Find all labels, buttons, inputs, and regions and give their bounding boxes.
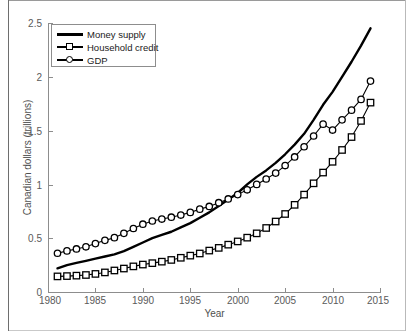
data-point-marker bbox=[178, 255, 184, 261]
data-point-marker bbox=[253, 230, 259, 236]
data-point-marker bbox=[329, 159, 335, 165]
data-point-marker bbox=[168, 257, 174, 263]
data-point-marker bbox=[310, 133, 316, 139]
data-point-marker bbox=[282, 211, 288, 217]
data-point-marker bbox=[291, 202, 297, 208]
data-point-marker bbox=[130, 225, 136, 231]
data-point-marker bbox=[64, 248, 70, 254]
data-point-marker bbox=[358, 96, 364, 102]
data-point-marker bbox=[187, 252, 193, 258]
legend-line-sample-money-supply bbox=[56, 28, 84, 40]
data-point-marker bbox=[348, 107, 354, 113]
data-point-marker bbox=[320, 169, 326, 175]
data-point-marker bbox=[73, 246, 79, 252]
data-point-marker bbox=[64, 273, 70, 279]
data-point-marker bbox=[73, 272, 79, 278]
legend-label-money-supply: Money supply bbox=[84, 29, 146, 40]
data-point-marker bbox=[83, 244, 89, 250]
legend-item-household-credit: Household credit bbox=[56, 41, 151, 53]
data-point-marker bbox=[244, 234, 250, 240]
legend-label-gdp: GDP bbox=[84, 55, 108, 66]
data-point-marker bbox=[253, 181, 259, 187]
data-point-marker bbox=[111, 234, 117, 240]
data-point-marker bbox=[339, 147, 345, 153]
data-point-marker bbox=[92, 240, 98, 246]
data-point-marker bbox=[244, 187, 250, 193]
data-point-marker bbox=[140, 221, 146, 227]
data-point-marker bbox=[216, 245, 222, 251]
data-point-marker bbox=[225, 241, 231, 247]
data-point-marker bbox=[102, 269, 108, 275]
data-point-marker bbox=[130, 263, 136, 269]
data-point-marker bbox=[121, 230, 127, 236]
data-point-marker bbox=[310, 180, 316, 186]
series-markers-gdp bbox=[54, 78, 373, 257]
legend-circle-marker-sample bbox=[56, 54, 84, 66]
data-point-marker bbox=[197, 206, 203, 212]
data-point-marker bbox=[272, 170, 278, 176]
data-point-marker bbox=[339, 117, 345, 123]
data-point-marker bbox=[187, 209, 193, 215]
data-point-marker bbox=[83, 272, 89, 278]
data-point-marker bbox=[235, 238, 241, 244]
data-point-marker bbox=[206, 203, 212, 209]
data-point-marker bbox=[235, 191, 241, 197]
data-point-marker bbox=[348, 134, 354, 140]
data-point-marker bbox=[102, 237, 108, 243]
data-point-marker bbox=[320, 121, 326, 127]
data-point-marker bbox=[282, 162, 288, 168]
chart-legend: Money supply Household credit GDP bbox=[51, 24, 156, 67]
series-line-household-credit bbox=[57, 103, 370, 277]
data-point-marker bbox=[140, 261, 146, 267]
data-point-marker bbox=[54, 250, 60, 256]
data-point-marker bbox=[159, 216, 165, 222]
data-point-marker bbox=[178, 212, 184, 218]
data-point-marker bbox=[301, 191, 307, 197]
data-point-marker bbox=[301, 144, 307, 150]
data-point-marker bbox=[263, 225, 269, 231]
data-point-marker bbox=[367, 99, 373, 105]
figure-container: 0 0.5 1 1.5 2 2.5 1980 1985 1990 1995 20… bbox=[0, 0, 410, 331]
data-point-marker bbox=[168, 214, 174, 220]
data-point-marker bbox=[358, 118, 364, 124]
data-point-marker bbox=[367, 78, 373, 84]
data-point-marker bbox=[291, 154, 297, 160]
legend-item-gdp: GDP bbox=[56, 54, 151, 66]
data-point-marker bbox=[206, 247, 212, 253]
data-point-marker bbox=[216, 199, 222, 205]
data-point-marker bbox=[159, 258, 165, 264]
legend-square-marker-sample bbox=[56, 41, 84, 53]
legend-item-money-supply: Money supply bbox=[56, 28, 151, 40]
data-point-marker bbox=[121, 265, 127, 271]
data-point-marker bbox=[263, 176, 269, 182]
data-point-marker bbox=[149, 218, 155, 224]
data-point-marker bbox=[92, 271, 98, 277]
data-point-marker bbox=[329, 127, 335, 133]
data-point-marker bbox=[111, 267, 117, 273]
data-point-marker bbox=[225, 196, 231, 202]
legend-label-household-credit: Household credit bbox=[84, 42, 158, 53]
data-point-marker bbox=[197, 250, 203, 256]
data-point-marker bbox=[54, 273, 60, 279]
data-point-marker bbox=[272, 218, 278, 224]
series-line-gdp bbox=[57, 81, 370, 253]
data-point-marker bbox=[149, 260, 155, 266]
